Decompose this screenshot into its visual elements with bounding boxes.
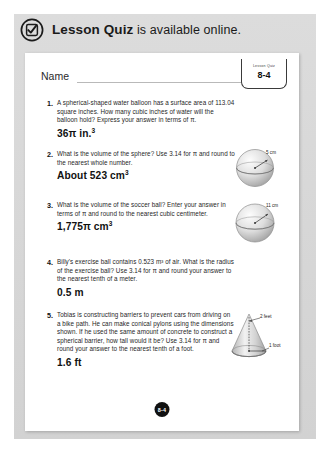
question-2-answer-exponent: 3 [125,169,129,176]
cone-figure-q5: 2 feet 1 foot [225,309,287,363]
sphere-figure-q2-label: 5 cm [266,150,276,155]
banner-text: Lesson Quiz is available online. [52,22,241,37]
lesson-badge-kicker: Lesson Quiz [242,63,286,69]
question-3-answer-exponent: 3 [109,220,113,227]
name-label: Name [41,70,69,82]
question-5-text: Tobias is constructing barriers to preve… [57,311,235,354]
name-write-line[interactable] [77,82,253,83]
sphere-figure-q3: 11 cm [229,199,287,245]
question-5-number: 5. [41,311,53,320]
question-2-number: 2. [41,150,53,159]
question-3-body: What is the volume of the soccer ball? E… [57,201,235,233]
question-4-number: 4. [41,258,53,267]
sphere-figure-q3-label: 11 cm [266,203,278,208]
question-1-answer-text: 36π in. [57,128,92,139]
question-3-answer: 1,775π cm3 [57,220,235,232]
sphere-figure-q2: 5 cm [229,146,287,190]
banner-rest-text: is available online. [133,23,241,37]
question-3-answer-text: 1,775π cm [57,222,109,233]
question-2-body: What is the volume of the sphere? Use 3.… [57,150,235,182]
question-5-answer-text: 1.6 ft [57,357,81,368]
page-number-badge: 8-4 [155,402,170,417]
question-1-text: A spherical-shaped water balloon has a s… [57,99,235,125]
question-1-body: A spherical-shaped water balloon has a s… [57,99,235,139]
question-4-answer: 0.5 m [57,286,235,298]
name-row: Name [41,69,251,89]
question-1-answer: 36π in.3 [57,127,235,139]
check-circle-icon [20,18,44,42]
question-3-text: What is the volume of the soccer ball? E… [57,201,235,218]
lesson-badge-number: 8-4 [242,70,286,81]
question-2-answer: About 523 cm3 [57,169,235,181]
question-2-text: What is the volume of the sphere? Use 3.… [57,150,235,167]
banner-bold-text: Lesson Quiz [52,22,133,37]
question-2-answer-text: About 523 cm [57,171,125,182]
question-3-number: 3. [41,201,53,210]
question-4-text: Billy's exercise ball contains 0.523 m³ … [57,258,235,284]
question-5-answer: 1.6 ft [57,356,235,368]
question-4-body: Billy's exercise ball contains 0.523 m³ … [57,258,235,298]
screenshot-root: Lesson Quiz is available online. Name Le… [0,0,316,453]
question-4-answer-text: 0.5 m [57,287,84,298]
lesson-badge: Lesson Quiz 8-4 [241,59,287,89]
cone-figure-height-label: 2 feet [260,314,272,319]
question-1-answer-exponent: 3 [92,127,96,134]
question-1-number: 1. [41,99,53,108]
cone-figure-radius-label: 1 foot [269,343,281,348]
worksheet-page: Name Lesson Quiz 8-4 1. A spherical-shap… [25,53,299,431]
question-5-body: Tobias is constructing barriers to preve… [57,311,235,368]
lesson-quiz-banner: Lesson Quiz is available online. [14,14,316,47]
